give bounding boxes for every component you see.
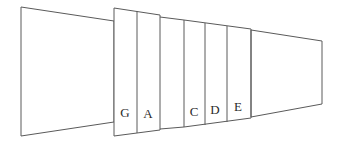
duct-diagram-canvas: G A C D E bbox=[0, 0, 341, 141]
section-label-e: E bbox=[234, 99, 242, 114]
connector-bottom-edge bbox=[160, 127, 184, 129]
section-label-c: C bbox=[190, 104, 199, 119]
section-label-a: A bbox=[143, 106, 153, 121]
duct-diagram-svg: G A C D E bbox=[0, 0, 341, 141]
inlet-cone-outline bbox=[21, 7, 114, 136]
section-label-d: D bbox=[210, 102, 219, 117]
outlet-cone-outline bbox=[251, 30, 322, 117]
section-label-g: G bbox=[120, 105, 129, 120]
connector-top-edge bbox=[160, 17, 184, 20]
